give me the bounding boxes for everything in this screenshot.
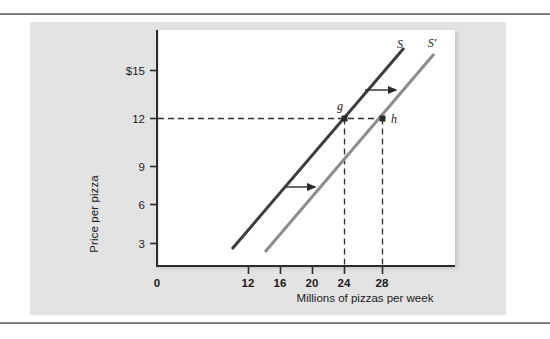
- y-tick-label-9: 9: [139, 161, 145, 173]
- y-tick-label-3: 3: [139, 238, 145, 250]
- x-tick-label-24: 24: [338, 277, 351, 289]
- x-tick-label-20: 20: [306, 277, 319, 289]
- figure-container: Price per pizza Millions of pizzas per w…: [0, 0, 550, 339]
- data-point-label-h: h: [391, 112, 397, 126]
- y-tick-label-15: $15: [126, 65, 145, 77]
- chart-svg: $15 12 9 6 3 0 12 16 20 24 28 S S': [0, 0, 550, 339]
- y-tick-label-12: 12: [132, 113, 145, 125]
- x-tick-marks: [249, 266, 383, 274]
- data-point-label-g: g: [337, 99, 343, 113]
- curve-label-S: S: [397, 37, 403, 51]
- y-tick-label-6: 6: [139, 199, 145, 211]
- curve-label-S-prime: S': [428, 36, 437, 50]
- supply-curve-S: [232, 48, 404, 249]
- x-tick-label-28: 28: [376, 277, 389, 289]
- x-tick-label-16: 16: [274, 277, 287, 289]
- x-tick-label-12: 12: [242, 277, 255, 289]
- data-point-g: [342, 116, 348, 122]
- data-point-h: [380, 116, 386, 122]
- x-tick-label-0: 0: [154, 277, 160, 289]
- supply-curve-S-prime: [265, 54, 434, 252]
